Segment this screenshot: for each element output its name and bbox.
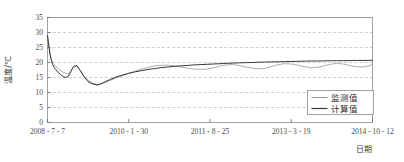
y-axis-tick-label: 10 — [36, 88, 44, 97]
y-axis-tick-label: 5 — [39, 103, 43, 112]
x-axis-tick-label: 2011 - 8 - 25 — [191, 127, 230, 136]
y-axis-tick-label: 25 — [36, 43, 44, 52]
y-axis-tick-label: 15 — [36, 73, 44, 82]
y-axis-title: 温度/℃ — [3, 56, 13, 84]
chart-canvas: 051015202530352008 - 7 - 72010 - 1 - 302… — [0, 0, 404, 162]
y-axis-tick-label: 35 — [36, 13, 44, 22]
x-axis-tick-label: 2013 - 3 - 19 — [272, 127, 311, 136]
x-axis-tick-label: 2014 - 10 - 12 — [351, 127, 394, 136]
y-axis-tick-label: 20 — [36, 58, 44, 67]
y-axis-tick-label: 30 — [36, 28, 44, 37]
chart-figure: 051015202530352008 - 7 - 72010 - 1 - 302… — [0, 0, 404, 162]
legend-label-1: 监测值 — [331, 93, 358, 103]
x-axis-title: 日期 — [356, 145, 372, 154]
x-axis-tick-label: 2010 - 1 - 30 — [109, 127, 148, 136]
chart-legend: 监测值计算值 — [308, 91, 374, 115]
legend-label-2: 计算值 — [331, 104, 358, 114]
x-axis-tick-label: 2008 - 7 - 7 — [30, 127, 65, 136]
